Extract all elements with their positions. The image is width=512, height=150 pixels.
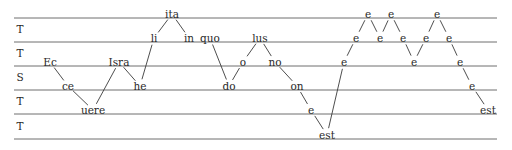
contour-segment — [394, 20, 400, 31]
syllable: e — [457, 56, 463, 68]
contour-segment — [213, 45, 227, 80]
contour-segment — [429, 20, 434, 31]
syllable: e — [341, 56, 347, 68]
syllable: uere — [81, 104, 105, 116]
contour-segment — [371, 20, 377, 31]
syllable: e — [446, 32, 452, 44]
syllable: in — [184, 32, 194, 44]
contour-segment — [315, 116, 323, 129]
syllable: do — [222, 80, 235, 92]
contour-segment — [233, 68, 240, 80]
contour-segment — [383, 20, 388, 31]
contour-segment — [476, 92, 484, 104]
contour-segment — [176, 20, 185, 33]
contour-segment — [417, 44, 423, 55]
syllable: e — [388, 8, 394, 20]
syllable: he — [134, 80, 147, 92]
syllable: e — [434, 8, 440, 20]
contour-segment — [124, 67, 136, 80]
syllable: e — [423, 32, 429, 44]
contour-segment — [463, 68, 469, 79]
contour-segment — [329, 69, 343, 128]
contour-segment — [301, 92, 308, 104]
contour-segment — [247, 44, 256, 57]
contour-segment — [440, 20, 446, 31]
syllable: e — [365, 8, 371, 20]
syllable: ce — [62, 80, 74, 92]
syllable: lus — [252, 32, 268, 44]
contour-segment — [347, 44, 353, 55]
row-labels: TTSTT — [16, 23, 23, 132]
contour-segment — [359, 20, 365, 31]
syllable: est — [319, 129, 336, 141]
contour-segment — [264, 44, 272, 56]
syllable: e — [469, 80, 475, 92]
contour-connectors — [54, 20, 484, 130]
contour-segment — [452, 44, 457, 55]
syllable: on — [290, 80, 303, 92]
contour-segment — [280, 67, 293, 81]
syllable: quo — [200, 32, 220, 44]
syllable: o — [240, 56, 246, 68]
contour-segment — [158, 20, 168, 33]
syllable: e — [377, 32, 383, 44]
melodic-contour-diagram: TTSTT EcceuereIsraheliitainquodoolusnoon… — [0, 0, 512, 150]
contour-segment — [142, 45, 152, 80]
syllable: est — [480, 104, 497, 116]
row-label: T — [16, 47, 23, 59]
syllable: e — [353, 32, 359, 44]
contour-segment — [73, 91, 88, 105]
contour-segment — [96, 68, 115, 104]
row-label: S — [16, 71, 23, 83]
contour-segment — [54, 68, 64, 81]
syllable: no — [268, 56, 281, 68]
row-label: T — [16, 95, 23, 107]
contour-segment — [406, 44, 411, 55]
syllable: Isra — [109, 56, 130, 68]
syllable: e — [411, 56, 417, 68]
syllable: e — [400, 32, 406, 44]
syllable: Ec — [43, 56, 57, 68]
syllable: ita — [165, 8, 179, 20]
syllables: EcceuereIsraheliitainquodoolusnooneestee… — [43, 8, 496, 141]
row-label: T — [16, 23, 23, 35]
syllable: e — [308, 104, 314, 116]
syllable: li — [151, 32, 158, 44]
row-label: T — [16, 120, 23, 132]
